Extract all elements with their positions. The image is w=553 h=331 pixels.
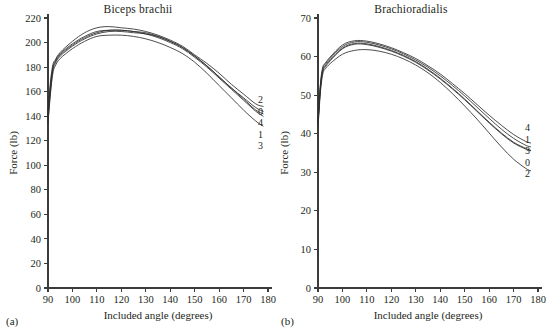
x-tick-label: 90 <box>313 294 324 305</box>
x-tick-label: 100 <box>65 294 81 305</box>
x-tick-label: 130 <box>138 294 154 305</box>
series-end-label-4: 4 <box>258 117 263 128</box>
y-tick-label: 10 <box>301 244 312 255</box>
series-line-4 <box>318 40 531 143</box>
panel-tag-a: (a) <box>6 315 18 327</box>
x-tick-label: 180 <box>530 294 546 305</box>
x-tick-label: 170 <box>506 294 522 305</box>
y-axis-title: Force (lb) <box>278 131 291 175</box>
x-tick-label: 120 <box>113 294 129 305</box>
series-line-3 <box>318 44 531 151</box>
series-end-label-3: 3 <box>258 140 263 151</box>
y-tick-label: 220 <box>25 13 41 24</box>
x-axis-title: Included angle (degrees) <box>374 309 483 322</box>
y-tick-label: 0 <box>306 283 311 294</box>
y-tick-label: 70 <box>301 13 312 24</box>
series-line-1 <box>48 31 263 121</box>
y-tick-label: 40 <box>301 128 312 139</box>
x-axis-title: Included angle (degrees) <box>104 309 213 322</box>
panel-biceps-brachii: Biceps brachii 0204060801001201401601802… <box>0 0 276 331</box>
y-tick-label: 30 <box>301 167 312 178</box>
y-tick-label: 60 <box>31 209 42 220</box>
x-tick-label: 120 <box>383 294 399 305</box>
series-end-label-2: 2 <box>258 94 263 105</box>
x-tick-label: 160 <box>211 294 227 305</box>
series-end-label-1: 1 <box>258 129 263 140</box>
x-tick-label: 110 <box>89 294 104 305</box>
series-end-label-0: 0 <box>258 106 263 117</box>
series-line-3 <box>48 35 263 126</box>
y-tick-label: 60 <box>301 51 312 62</box>
series-end-label-3: 3 <box>525 145 530 156</box>
series-line-0 <box>318 43 531 150</box>
x-tick-label: 160 <box>481 294 497 305</box>
series-end-label-4: 4 <box>525 122 530 133</box>
x-tick-label: 150 <box>187 294 203 305</box>
y-tick-label: 180 <box>25 62 41 73</box>
series-line-2 <box>48 27 263 113</box>
y-tick-label: 160 <box>25 86 41 97</box>
series-line-4 <box>48 30 263 117</box>
y-tick-label: 50 <box>301 90 312 101</box>
x-tick-label: 130 <box>408 294 424 305</box>
x-tick-label: 110 <box>359 294 374 305</box>
series-end-label-0: 0 <box>525 157 530 168</box>
x-tick-label: 100 <box>335 294 351 305</box>
figure-container: Biceps brachii 0204060801001201401601802… <box>0 0 553 331</box>
y-tick-label: 0 <box>36 283 41 294</box>
x-tick-label: 150 <box>457 294 473 305</box>
x-tick-label: 90 <box>43 294 54 305</box>
x-tick-label: 140 <box>162 294 178 305</box>
y-tick-label: 20 <box>301 205 312 216</box>
y-tick-label: 40 <box>31 234 42 245</box>
series-end-label-1: 1 <box>525 134 530 145</box>
series-end-label-2: 2 <box>525 168 530 179</box>
y-axis-title: Force (lb) <box>7 131 20 175</box>
panel-brachioradialis: Brachioradialis 010203040506070901001101… <box>273 0 549 331</box>
x-tick-label: 140 <box>432 294 448 305</box>
chart-biceps-brachii: 0204060801001201401601802002209010011012… <box>0 0 276 331</box>
y-tick-label: 100 <box>25 160 41 171</box>
y-tick-label: 120 <box>25 135 41 146</box>
x-tick-label: 170 <box>236 294 252 305</box>
y-tick-label: 20 <box>31 258 42 269</box>
panel-tag-b: (b) <box>281 315 294 327</box>
y-tick-label: 140 <box>25 111 41 122</box>
y-tick-label: 200 <box>25 37 41 48</box>
chart-brachioradialis: 0102030405060709010011012013014015016017… <box>273 0 549 331</box>
series-line-0 <box>48 30 263 115</box>
y-tick-label: 80 <box>31 184 42 195</box>
